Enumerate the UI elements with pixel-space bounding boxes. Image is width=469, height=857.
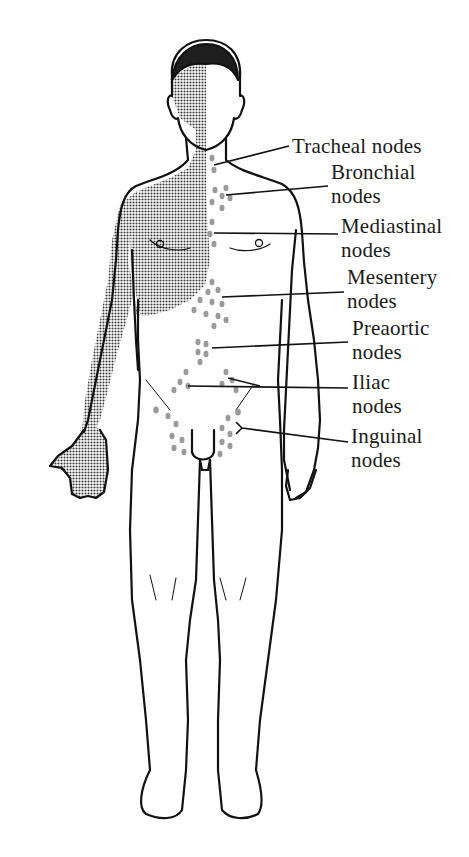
label-tracheal-nodes: Tracheal nodes: [292, 134, 422, 158]
label-preaortic-nodes: Preaortic nodes: [352, 316, 430, 364]
label-inguinal-nodes: Inguinal nodes: [351, 424, 423, 472]
leader-inguinal: [236, 422, 348, 442]
label-mesentery-nodes: Mesentery nodes: [347, 265, 437, 313]
label-text: Mesentery: [347, 265, 437, 289]
leader-iliac: [188, 378, 348, 388]
leader-mesentery: [222, 292, 344, 297]
shaded-drainage-region: [50, 58, 210, 498]
label-mediastinal-nodes: Mediastinal nodes: [341, 214, 442, 262]
label-text: Iliac: [352, 370, 402, 394]
label-text: nodes: [352, 340, 430, 364]
label-text: nodes: [351, 448, 423, 472]
label-iliac-nodes: Iliac nodes: [352, 370, 402, 418]
label-text: nodes: [331, 184, 416, 208]
label-text: nodes: [347, 289, 437, 313]
label-text: nodes: [352, 394, 402, 418]
label-text: Bronchial: [331, 160, 416, 184]
leader-bronchial: [226, 186, 328, 195]
label-text: Inguinal: [351, 424, 423, 448]
label-bronchial-nodes: Bronchial nodes: [331, 160, 416, 208]
label-text: Preaortic: [352, 316, 430, 340]
label-text: Mediastinal: [341, 214, 442, 238]
leader-mediastinal: [214, 233, 338, 234]
leader-lines: [188, 146, 348, 442]
label-text: Tracheal nodes: [292, 134, 422, 158]
label-text: nodes: [341, 238, 442, 262]
